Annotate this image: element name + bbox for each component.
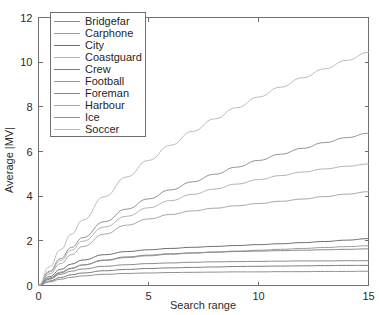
- legend-line-swatch: [54, 21, 80, 22]
- legend-item-label: Football: [85, 75, 124, 87]
- y-tick-label: 12: [20, 12, 32, 24]
- legend-item-label: City: [85, 39, 104, 51]
- legend-line-swatch: [54, 117, 80, 118]
- y-tick-label: 8: [26, 101, 32, 113]
- legend-line-swatch: [54, 93, 80, 94]
- legend-item: Carphone: [51, 27, 145, 39]
- legend: BridgefarCarphoneCityCoastguardCrewFootb…: [50, 12, 146, 137]
- x-tick-label: 15: [362, 290, 374, 302]
- legend-line-swatch: [54, 57, 80, 58]
- figure-container: 051015024681012 Search range Average |MV…: [0, 0, 379, 315]
- x-tick-label: 0: [35, 290, 41, 302]
- legend-item-label: Crew: [85, 63, 111, 75]
- legend-item: Soccer: [51, 123, 145, 135]
- legend-item-label: Ice: [85, 111, 100, 123]
- legend-line-swatch: [54, 105, 80, 106]
- legend-line-swatch: [54, 45, 80, 46]
- legend-item-label: Soccer: [85, 123, 119, 135]
- legend-item: Football: [51, 75, 145, 87]
- legend-item: Ice: [51, 111, 145, 123]
- y-axis-title: Average |MV|: [3, 127, 15, 193]
- y-tick-label: 0: [26, 280, 32, 292]
- x-axis-title: Search range: [170, 299, 236, 311]
- x-tick-label: 10: [252, 290, 264, 302]
- series-line-ice: [39, 271, 369, 285]
- legend-line-swatch: [54, 81, 80, 82]
- legend-item: Foreman: [51, 87, 145, 99]
- legend-line-swatch: [54, 33, 80, 34]
- y-tick-label: 10: [20, 56, 32, 68]
- legend-item-label: Carphone: [85, 27, 133, 39]
- legend-item-label: Bridgefar: [85, 15, 130, 27]
- legend-item: Crew: [51, 63, 145, 75]
- legend-line-swatch: [54, 69, 80, 70]
- legend-item: Harbour: [51, 99, 145, 111]
- legend-item: City: [51, 39, 145, 51]
- legend-item-label: Foreman: [85, 87, 129, 99]
- legend-item-label: Coastguard: [85, 51, 142, 63]
- y-tick-label: 4: [26, 190, 32, 202]
- legend-item: Coastguard: [51, 51, 145, 63]
- legend-item-label: Harbour: [85, 99, 125, 111]
- y-tick-label: 2: [26, 235, 32, 247]
- legend-line-swatch: [54, 129, 80, 130]
- x-tick-label: 5: [145, 290, 151, 302]
- y-tick-label: 6: [26, 146, 32, 158]
- legend-item: Bridgefar: [51, 15, 145, 27]
